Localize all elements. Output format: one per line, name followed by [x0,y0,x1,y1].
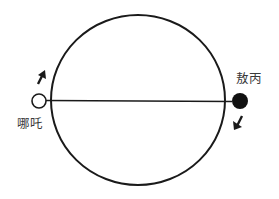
arrow-up-right-icon [38,70,46,84]
aobing-label: 敖丙 [236,72,262,86]
aobing-solid-dot [232,93,248,109]
diameter-line [46,101,232,102]
diagram-canvas [0,0,279,199]
nezha-label: 哪吒 [17,117,43,131]
nezha-hollow-dot [32,94,46,108]
arrow-down-left-icon [233,116,242,130]
